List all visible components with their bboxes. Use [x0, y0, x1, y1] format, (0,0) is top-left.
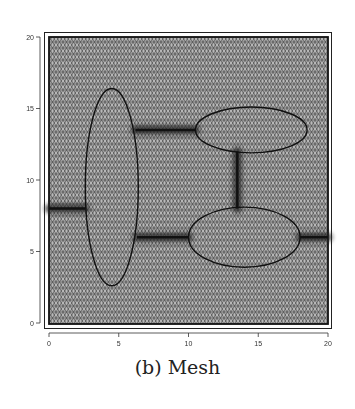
x-tick-label: 15: [254, 340, 262, 347]
x-tick-label: 5: [117, 340, 121, 347]
y-tick-label: 15: [26, 105, 34, 112]
x-tick-label: 20: [324, 340, 332, 347]
y-tick-label: 0: [30, 320, 34, 327]
mesh-figure: 05101520 05101520: [0, 0, 355, 409]
x-tick-label: 0: [47, 340, 51, 347]
y-axis: 05101520: [26, 34, 40, 327]
y-tick-label: 10: [26, 177, 34, 184]
mesh-domain: [49, 37, 328, 324]
y-tick-label: 5: [30, 248, 34, 255]
y-tick-label: 20: [26, 34, 34, 41]
x-tick-label: 10: [185, 340, 193, 347]
figure-caption: (b) Mesh: [0, 356, 355, 378]
x-axis: 05101520: [47, 333, 332, 347]
